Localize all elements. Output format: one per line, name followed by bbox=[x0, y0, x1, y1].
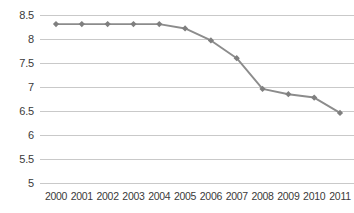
x-tick-label: 2010 bbox=[303, 190, 325, 202]
x-tick-label: 2004 bbox=[148, 190, 170, 202]
y-tick-label: 8 bbox=[28, 33, 34, 45]
line-chart: 8.587.576.565.55 20002001200220032004200… bbox=[0, 0, 354, 213]
x-tick-label: 2008 bbox=[251, 190, 273, 202]
y-axis: 8.587.576.565.55 bbox=[0, 0, 40, 213]
plot-area: 2000200120022003200420052006200720082009… bbox=[40, 0, 354, 213]
y-tick-label: 7 bbox=[28, 81, 34, 93]
y-tick-label: 7.5 bbox=[19, 57, 34, 69]
x-tick-label: 2009 bbox=[277, 190, 299, 202]
x-tick-label: 2003 bbox=[122, 190, 144, 202]
y-tick-label: 6.5 bbox=[19, 105, 34, 117]
x-tick-label: 2002 bbox=[97, 190, 119, 202]
x-axis: 2000200120022003200420052006200720082009… bbox=[40, 0, 354, 213]
x-tick-label: 2011 bbox=[329, 190, 350, 202]
y-tick-label: 5.5 bbox=[19, 153, 34, 165]
x-tick-label: 2007 bbox=[226, 190, 248, 202]
y-tick-label: 5 bbox=[28, 177, 34, 189]
x-tick-label: 2001 bbox=[71, 190, 93, 202]
y-tick-label: 6 bbox=[28, 129, 34, 141]
y-tick-label: 8.5 bbox=[19, 9, 34, 21]
x-tick-label: 2005 bbox=[174, 190, 196, 202]
x-tick-label: 2006 bbox=[200, 190, 222, 202]
x-tick-label: 2000 bbox=[45, 190, 67, 202]
